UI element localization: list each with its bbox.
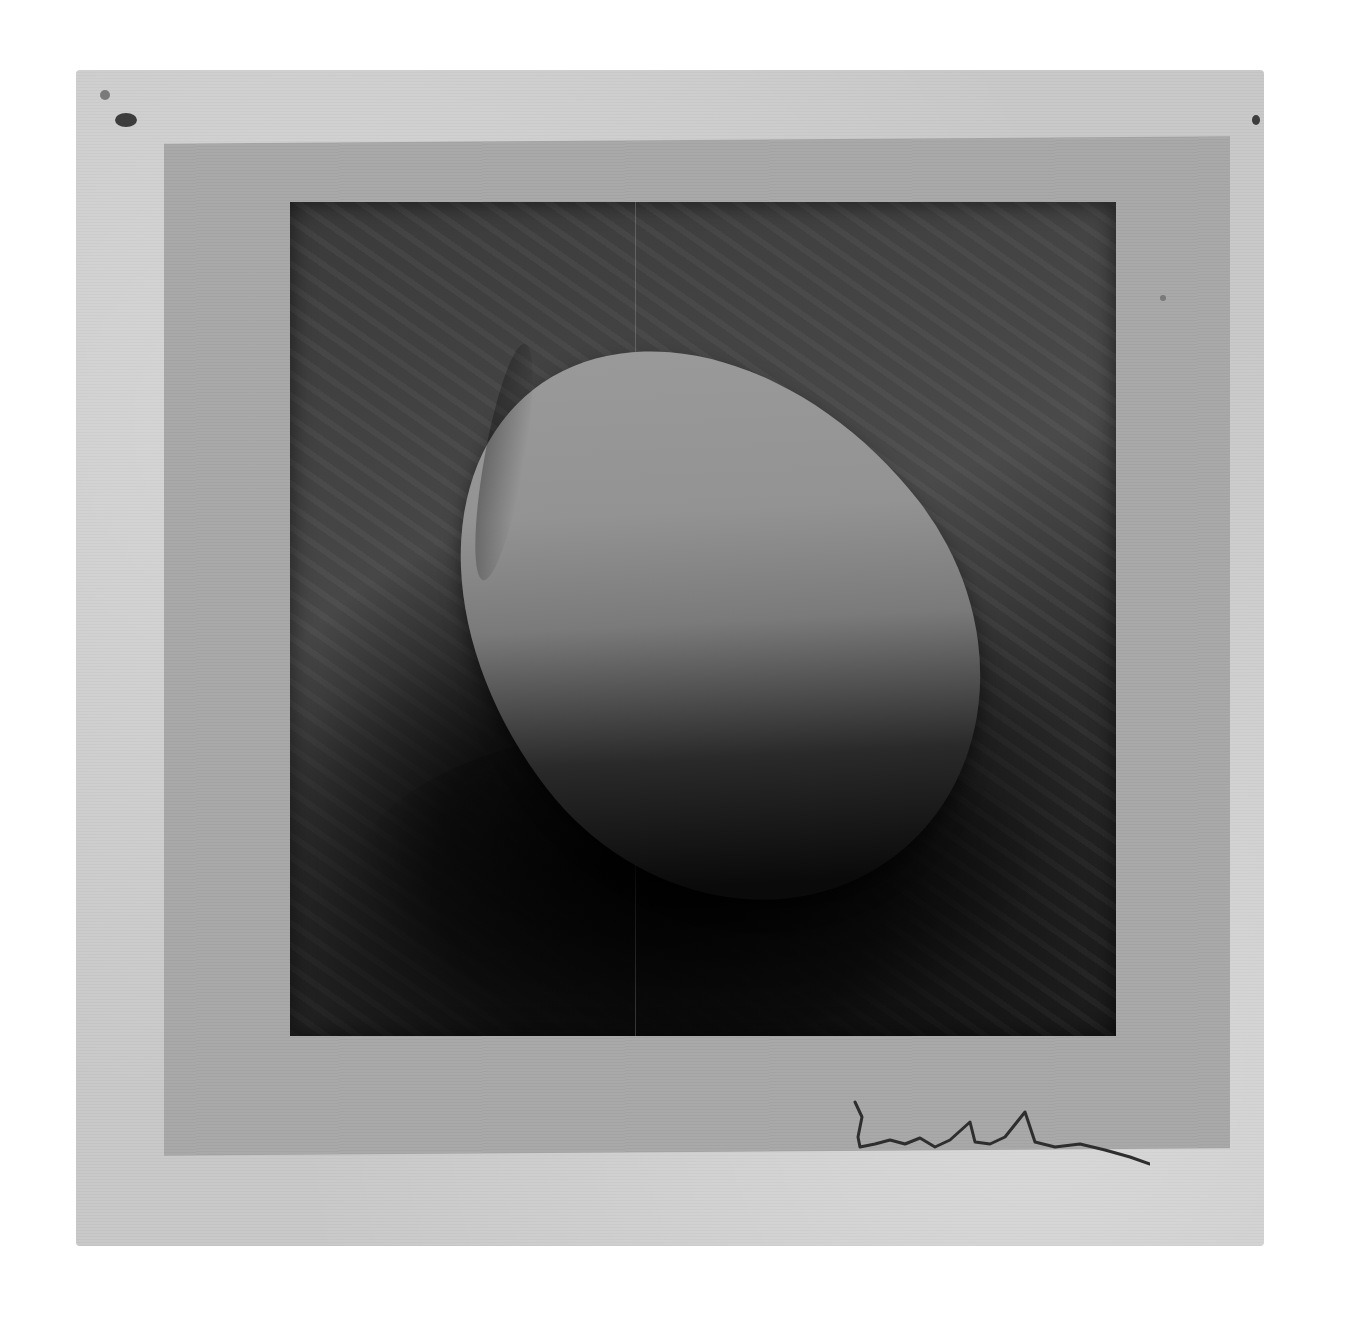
paper-blemish: [100, 90, 110, 100]
egg-photograph: [290, 202, 1116, 1036]
signature: [830, 1092, 1150, 1172]
paper-blemish: [1160, 295, 1166, 301]
paper-blemish: [1252, 115, 1260, 125]
paper-blemish: [115, 113, 137, 127]
